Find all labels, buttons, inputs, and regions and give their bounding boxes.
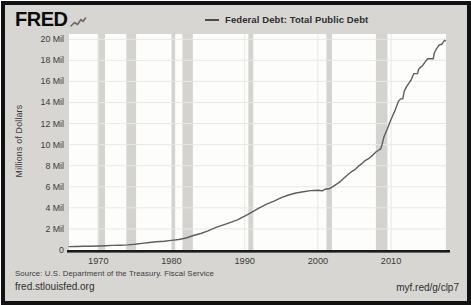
chart-legend: Federal Debt: Total Public Debt: [205, 14, 368, 25]
line-chart-icon: [70, 16, 87, 29]
y-tick-label: 20 Mil: [41, 34, 65, 44]
y-tick-label: 2 Mil: [45, 224, 64, 234]
x-tick-label: 1970: [88, 256, 108, 266]
fred-logo-text: FRED: [15, 8, 67, 31]
fred-logo: FRED: [15, 8, 87, 31]
y-tick-label: 6 Mil: [45, 182, 64, 192]
y-tick-label: 16 Mil: [41, 76, 65, 86]
plot-area: [69, 34, 446, 250]
recession-band: [248, 34, 253, 250]
y-tick-label: 14 Mil: [41, 97, 65, 107]
y-tick-label: 10 Mil: [41, 140, 65, 150]
legend-line-sample: [205, 19, 219, 21]
recession-band: [326, 34, 331, 250]
debt-line-chart: 02 Mil4 Mil6 Mil8 Mil10 Mil12 Mil14 Mil1…: [5, 5, 467, 301]
recession-band: [98, 34, 105, 250]
x-tick-label: 1980: [161, 256, 181, 266]
recession-band: [376, 34, 388, 250]
y-axis-title: Millions of Dollars: [14, 61, 24, 221]
y-tick-label: 18 Mil: [41, 55, 65, 65]
fred-site-url: fred.stlouisfed.org: [15, 281, 95, 292]
y-tick-label: 12 Mil: [41, 119, 65, 129]
x-axis-line: [67, 250, 450, 253]
y-tick-label: 8 Mil: [45, 161, 64, 171]
recession-band: [171, 34, 175, 250]
recession-band: [182, 34, 192, 250]
y-tick-label: 4 Mil: [45, 203, 64, 213]
short-url: myf.red/g/clp7: [396, 282, 459, 293]
x-tick-label: 2010: [381, 256, 401, 266]
legend-label: Federal Debt: Total Public Debt: [225, 14, 368, 25]
x-tick-label: 1990: [234, 256, 254, 266]
recession-band: [126, 34, 136, 250]
y-tick-label: 0: [59, 245, 64, 255]
x-tick-label: 2000: [308, 256, 328, 266]
source-text: Source: U.S. Department of the Treasury.…: [15, 269, 214, 278]
fred-chart-frame: 02 Mil4 Mil6 Mil8 Mil10 Mil12 Mil14 Mil1…: [1, 1, 471, 305]
